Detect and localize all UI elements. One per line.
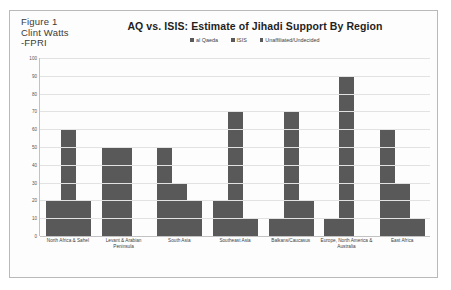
bar	[102, 147, 117, 236]
bar	[117, 147, 132, 236]
gridline	[40, 94, 430, 95]
y-axis-tick-label: 20	[32, 198, 37, 203]
y-axis-tick-label: 60	[32, 127, 37, 132]
y-axis-tick-label: 10	[32, 216, 37, 221]
gridline	[40, 183, 430, 184]
y-axis-tick-label: 100	[29, 56, 37, 61]
x-axis-label: Southeast Asia	[207, 238, 263, 250]
gridline	[40, 218, 430, 219]
gridline	[40, 165, 430, 166]
gridline	[40, 111, 430, 112]
bar	[157, 147, 172, 236]
y-axis-tick-label: 90	[32, 73, 37, 78]
y-axis-tick-label: 50	[32, 145, 37, 150]
bar	[269, 218, 284, 236]
y-axis-tick-label: 30	[32, 180, 37, 185]
y-axis-tick-label: 0	[34, 234, 37, 239]
y-axis-tick-label: 70	[32, 109, 37, 114]
gridline	[40, 58, 430, 59]
y-axis-tick-label: 40	[32, 162, 37, 167]
x-axis-label: Levant & Arabian Peninsula	[96, 238, 152, 250]
x-axis-label: East Africa	[374, 238, 430, 250]
gridline	[40, 147, 430, 148]
bar	[172, 183, 187, 236]
x-axis-label: Europe, North America & Australia	[319, 238, 375, 250]
bar	[324, 218, 339, 236]
x-axis-label: South Asia	[151, 238, 207, 250]
plot-wrapper: 1009080706050403020100 North Africa & Sa…	[10, 11, 439, 279]
gridline	[40, 129, 430, 130]
gridline	[40, 236, 430, 237]
bar	[395, 183, 410, 236]
x-axis-label: Balkans/Caucasus	[263, 238, 319, 250]
x-axis-label: North Africa & Sahel	[40, 238, 96, 250]
gridline	[40, 76, 430, 77]
bar	[410, 218, 425, 236]
bar	[339, 76, 354, 236]
x-axis-labels: North Africa & SahelLevant & Arabian Pen…	[40, 238, 430, 250]
y-axis-tick-label: 80	[32, 91, 37, 96]
bar	[243, 218, 258, 236]
plot-area: 1009080706050403020100	[39, 58, 430, 236]
figure-frame: Figure 1 Clint Watts -FPRI AQ vs. ISIS: …	[9, 10, 438, 278]
gridline	[40, 200, 430, 201]
